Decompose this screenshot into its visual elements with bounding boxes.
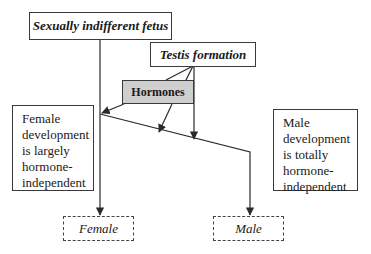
node-male: Male bbox=[213, 216, 284, 241]
edge-hormones-female-path bbox=[102, 104, 124, 113]
note-text: Female development is largely hormone- i… bbox=[22, 111, 89, 191]
note-male-development: Male development is totally hormone- ind… bbox=[273, 109, 358, 191]
edge-hormones-male-path bbox=[159, 104, 172, 132]
node-sexually-indifferent-fetus: Sexually indifferent fetus bbox=[29, 12, 172, 40]
node-label: Female bbox=[79, 221, 118, 237]
node-label: Sexually indifferent fetus bbox=[33, 18, 169, 34]
node-label: Hormones bbox=[131, 85, 184, 100]
node-female: Female bbox=[63, 216, 134, 241]
note-text: Male development is totally hormone- ind… bbox=[283, 115, 350, 195]
node-label: Testis formation bbox=[160, 47, 247, 63]
node-label: Male bbox=[235, 221, 262, 237]
node-testis-formation: Testis formation bbox=[150, 42, 256, 67]
node-hormones: Hormones bbox=[122, 80, 194, 104]
note-female-development: Female development is largely hormone- i… bbox=[12, 105, 94, 191]
edge-male-path-male bbox=[100, 114, 250, 215]
